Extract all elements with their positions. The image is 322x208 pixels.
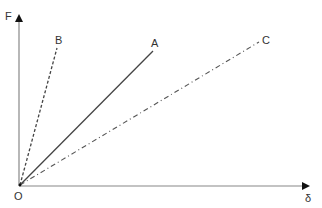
y-axis-label: F	[5, 10, 12, 22]
line-c	[20, 42, 259, 185]
line-a	[20, 51, 153, 185]
x-axis-label: δ	[305, 192, 311, 204]
line-a-label: A	[151, 37, 159, 49]
line-b	[20, 48, 57, 185]
origin-point	[19, 184, 22, 187]
line-c-label: C	[262, 34, 270, 46]
origin-label: O	[14, 190, 23, 202]
line-b-label: B	[55, 34, 62, 46]
force-displacement-diagram: F δ O A B C	[0, 0, 322, 208]
